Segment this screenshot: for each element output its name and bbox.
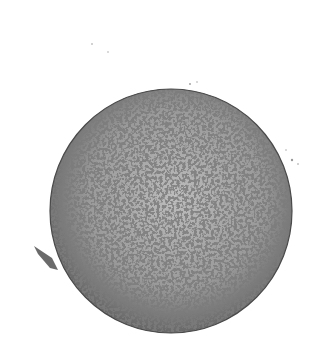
stem xyxy=(34,246,58,270)
melon-body xyxy=(50,89,293,334)
melon-sketch xyxy=(0,0,329,355)
